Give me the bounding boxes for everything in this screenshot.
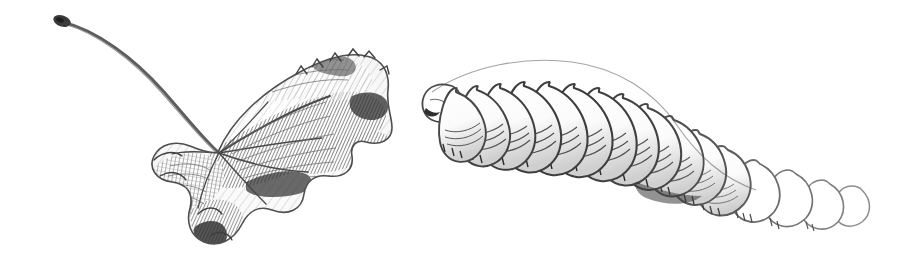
illustration-plate: [0, 0, 908, 262]
plate-canvas: [0, 0, 908, 262]
